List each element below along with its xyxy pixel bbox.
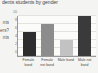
cropped-left-line-3: nts	[0, 34, 9, 42]
bar[interactable]	[78, 16, 91, 56]
chart-title: dents students by gender	[2, 0, 98, 5]
y-axis-tick-label: 2	[15, 42, 17, 46]
chart-page: dents students by gender nts ers? nts 02…	[0, 0, 98, 73]
bar[interactable]	[41, 24, 54, 56]
x-axis-label: Female band	[20, 58, 37, 67]
y-axis-tick-label: 4	[15, 34, 17, 38]
y-axis-tick-label: 8	[15, 18, 17, 22]
bars-container	[18, 16, 96, 56]
bar-chart-plot-area: 0246810	[17, 16, 96, 57]
x-axis-labels: Female bandFemale not bandMale bandMale …	[17, 58, 96, 67]
cropped-left-text: nts ers? nts	[0, 19, 9, 42]
bar[interactable]	[60, 40, 73, 56]
cropped-left-line-1: nts	[0, 19, 9, 27]
y-axis-tick-label: 10	[13, 10, 17, 14]
bar[interactable]	[23, 32, 36, 56]
cropped-left-line-2: ers?	[0, 27, 9, 35]
x-axis-label: Male band	[57, 58, 74, 67]
x-axis-label: Female not band	[39, 58, 56, 67]
x-axis-label: Male not band	[76, 58, 93, 67]
y-axis-tick-label: 6	[15, 26, 17, 30]
y-axis-tick-label: 0	[15, 50, 17, 54]
